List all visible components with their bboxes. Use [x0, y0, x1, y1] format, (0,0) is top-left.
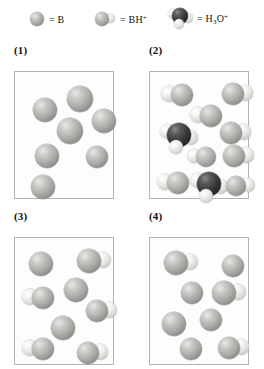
- molecule-boron: [200, 309, 222, 331]
- molecule-bh-cation: [212, 281, 246, 305]
- legend-label-bh-cation: = BH+: [120, 14, 147, 25]
- molecule-boron: [180, 338, 202, 360]
- molecule-bh-cation: [218, 337, 249, 359]
- panel-4-contents: [150, 238, 248, 364]
- molecule-boron: [29, 252, 53, 276]
- molecule-bh-cation: [23, 338, 54, 360]
- legend: = B = BH+ = H3O+: [0, 0, 264, 36]
- hydronium-icon: [168, 9, 194, 29]
- molecule-bh-cation: [158, 172, 189, 194]
- molecule-bh-cation: [95, 12, 115, 26]
- panel-1-contents: [15, 72, 113, 198]
- panel-3-contents: [15, 238, 113, 364]
- bh-cation-icon: [95, 9, 117, 29]
- molecule-boron: [92, 109, 116, 133]
- molecule-boron: [64, 278, 88, 302]
- molecule-bh-cation: [222, 83, 253, 105]
- legend-entry-hydronium: = H3O+: [168, 8, 228, 30]
- molecule-bh-cation: [23, 287, 54, 309]
- molecule-hydronium: [190, 173, 226, 204]
- molecule-hydronium: [168, 9, 192, 30]
- molecule-boron: [51, 316, 75, 340]
- molecule-boron: [67, 86, 93, 112]
- legend-label-boron: = B: [49, 14, 64, 25]
- molecule-bh-cation: [162, 84, 193, 106]
- molecule-bh-cation: [220, 122, 251, 144]
- legend-entry-boron: = B: [30, 8, 64, 30]
- panel-2-container: [149, 71, 249, 199]
- molecule-bh-cation: [77, 249, 111, 273]
- molecule-boron: [30, 12, 44, 26]
- legend-label-hydronium: = H3O+: [197, 13, 228, 26]
- panel-2-title: (2): [149, 44, 162, 56]
- panel-4-container: [149, 237, 249, 365]
- boron-sphere-icon: [30, 9, 46, 29]
- molecule-bh-cation: [223, 145, 254, 167]
- panel-1-container: [14, 71, 114, 199]
- molecule-bh-cation: [188, 147, 216, 167]
- panel-1-title: (1): [14, 44, 27, 56]
- panel-3-container: [14, 237, 114, 365]
- molecule-boron: [57, 118, 83, 144]
- molecule-boron: [31, 175, 55, 199]
- molecule-bh-cation: [86, 300, 117, 322]
- molecule-boron: [35, 144, 59, 168]
- panel-4-title: (4): [149, 210, 162, 222]
- panel-3-title: (3): [14, 210, 27, 222]
- molecule-boron: [222, 255, 244, 277]
- molecule-bh-cation: [226, 176, 254, 196]
- molecule-boron: [181, 282, 203, 304]
- molecule-boron: [86, 146, 108, 168]
- molecule-bh-cation: [77, 342, 108, 364]
- molecule-boron: [33, 98, 57, 122]
- molecule-boron: [162, 312, 186, 336]
- panel-2-contents: [150, 72, 248, 198]
- molecule-bh-cation: [164, 251, 198, 275]
- legend-entry-bh-cation: = BH+: [95, 8, 147, 30]
